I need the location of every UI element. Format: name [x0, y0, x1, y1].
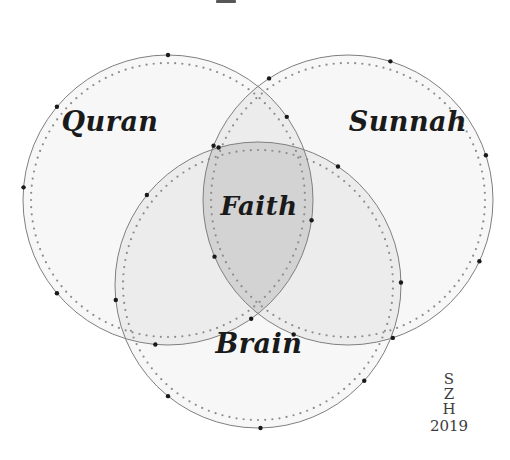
dotted-ring-dot: [242, 314, 244, 316]
dotted-ring-dot: [297, 157, 299, 159]
dotted-ring-dot: [278, 318, 280, 320]
dotted-ring-dot: [462, 274, 464, 276]
dotted-ring-dot: [482, 177, 484, 179]
dotted-ring-dot: [235, 318, 237, 320]
dotted-ring-dot: [384, 238, 386, 240]
dotted-ring-dot: [481, 227, 483, 229]
circle-marker-dot: [153, 342, 157, 346]
dotted-ring-dot: [444, 296, 446, 298]
venn-diagram-svg: Quran Sunnah Brain Faith S Z H 2019: [0, 0, 510, 460]
dotted-ring-dot: [133, 336, 135, 338]
dotted-ring-dot: [195, 333, 197, 335]
dotted-ring-dot: [181, 63, 183, 65]
dotted-ring-dot: [65, 291, 67, 293]
dotted-ring-dot: [311, 331, 313, 333]
dotted-ring-dot: [221, 154, 223, 156]
dotted-ring-dot: [123, 302, 125, 304]
dotted-ring-dot: [223, 74, 225, 76]
dotted-ring-dot: [122, 295, 124, 297]
dotted-ring-dot: [201, 407, 203, 409]
dotted-ring-dot: [375, 349, 377, 351]
dotted-ring-dot: [240, 113, 242, 115]
dotted-ring-dot: [483, 185, 485, 187]
dotted-ring-dot: [31, 213, 33, 215]
dotted-ring-dot: [301, 227, 303, 229]
dotted-ring-dot: [167, 62, 169, 64]
dotted-ring-dot: [131, 67, 133, 69]
dotted-ring-dot: [264, 296, 266, 298]
dotted-ring-dot: [217, 241, 219, 243]
dotted-ring-dot: [242, 84, 244, 86]
dotted-ring-dot: [160, 378, 162, 380]
dotted-ring-dot: [225, 261, 227, 263]
dotted-ring-dot: [285, 77, 287, 79]
dotted-ring-dot: [299, 412, 301, 414]
circle-marker-dot: [212, 254, 216, 258]
dotted-ring-dot: [215, 163, 217, 165]
dotted-ring-dot: [304, 192, 306, 194]
dotted-ring-dot: [259, 97, 261, 99]
dotted-ring-dot: [188, 400, 190, 402]
dotted-ring-dot: [361, 63, 363, 65]
dotted-ring-dot: [235, 80, 237, 82]
circle-marker-dot: [309, 218, 313, 222]
dotted-ring-dot: [297, 241, 299, 243]
dotted-ring-dot: [126, 316, 128, 318]
dotted-ring-dot: [130, 330, 132, 332]
dotted-ring-dot: [122, 273, 124, 275]
dotted-ring-dot: [306, 410, 308, 412]
dotted-ring-dot: [484, 199, 486, 201]
dotted-ring-dot: [484, 192, 486, 194]
dotted-ring-dot: [232, 124, 234, 126]
dotted-ring-dot: [171, 180, 173, 182]
dotted-ring-dot: [151, 201, 153, 203]
dotted-ring-dot: [367, 206, 369, 208]
dotted-ring-dot: [295, 248, 297, 250]
artist-signature: S Z H 2019: [430, 370, 468, 435]
dotted-ring-dot: [75, 97, 77, 99]
dotted-ring-dot: [319, 404, 321, 406]
dotted-ring-dot: [45, 261, 47, 263]
dotted-ring-dot: [215, 234, 217, 236]
dotted-ring-dot: [225, 137, 227, 139]
dotted-ring-dot: [235, 151, 237, 153]
dotted-ring-dot: [151, 367, 153, 369]
dotted-ring-dot: [285, 416, 287, 418]
dotted-ring-dot: [392, 280, 394, 282]
dotted-ring-dot: [111, 324, 113, 326]
dotted-ring-dot: [266, 310, 268, 312]
dotted-ring-dot: [391, 266, 393, 268]
dotted-ring-dot: [266, 88, 268, 90]
dotted-ring-dot: [313, 407, 315, 409]
circle-marker-dot: [21, 185, 25, 189]
dotted-ring-dot: [128, 323, 130, 325]
dotted-ring-dot: [477, 241, 479, 243]
dotted-ring-dot: [81, 92, 83, 94]
dotted-ring-dot: [247, 310, 249, 312]
dotted-ring-dot: [232, 274, 234, 276]
dotted-ring-dot: [155, 373, 157, 375]
dotted-ring-dot: [282, 124, 284, 126]
dotted-ring-dot: [37, 241, 39, 243]
dotted-ring-dot: [375, 218, 377, 220]
dotted-ring-dot: [273, 113, 275, 115]
dotted-ring-dot: [223, 324, 225, 326]
dotted-ring-dot: [325, 400, 327, 402]
dotted-ring-dot: [269, 291, 271, 293]
signature-initial-h: H: [442, 400, 455, 418]
dotted-ring-dot: [146, 362, 148, 364]
circle-marker-dot: [249, 317, 253, 321]
dotted-ring-dot: [469, 261, 471, 263]
dotted-ring-dot: [299, 156, 301, 158]
dotted-ring-dot: [130, 238, 132, 240]
dotted-ring-dot: [272, 84, 274, 86]
dotted-ring-dot: [211, 185, 213, 187]
dotted-ring-dot: [354, 62, 356, 64]
dotted-ring-dot: [286, 267, 288, 269]
dotted-ring-dot: [292, 143, 294, 145]
dotted-ring-dot: [176, 176, 178, 178]
dotted-ring-dot: [124, 309, 126, 311]
dotted-ring-dot: [228, 416, 230, 418]
dotted-ring-dot: [174, 336, 176, 338]
dotted-ring-dot: [304, 199, 306, 201]
